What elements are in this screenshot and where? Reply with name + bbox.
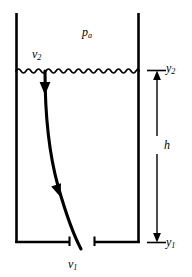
ambient-pressure-label: pa (82, 26, 92, 40)
height-symbol: h (164, 138, 170, 152)
height-label: h (164, 139, 170, 151)
flow-arrowhead-lower (51, 183, 61, 197)
surface-velocity-subscript: 2 (37, 53, 41, 62)
dimension-arrowhead-bottom (153, 233, 161, 243)
free-surface-wavy-line (16, 69, 139, 73)
streamline (40, 71, 81, 249)
flow-arrowhead-upper (40, 82, 51, 95)
exit-velocity-label: v1 (68, 258, 77, 272)
physics-diagram-figure: pa v2 y2 h y1 v1 (0, 0, 192, 277)
dimension-arrowhead-top (153, 71, 161, 81)
lower-level-label: y1 (166, 236, 175, 250)
free-surface-path (16, 69, 139, 73)
ambient-pressure-subscript: a (88, 31, 92, 40)
streamline-path (45, 71, 81, 249)
height-dimension (147, 71, 166, 243)
upper-level-subscript: 2 (171, 67, 175, 76)
surface-velocity-label: v2 (32, 48, 41, 62)
lower-level-subscript: 1 (171, 241, 175, 250)
exit-velocity-subscript: 1 (73, 263, 77, 272)
upper-level-label: y2 (166, 62, 175, 76)
